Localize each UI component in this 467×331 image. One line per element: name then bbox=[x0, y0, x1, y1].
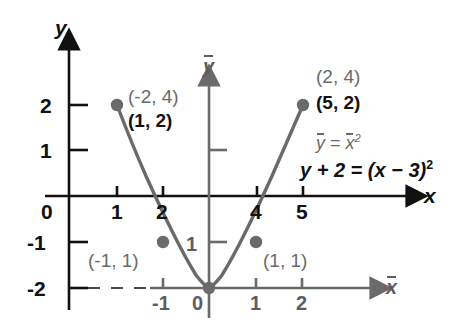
point-vertex-3-minus2 bbox=[203, 282, 215, 294]
eq-equals-sign: = bbox=[325, 133, 346, 153]
eq-primary-exponent: 2 bbox=[426, 158, 433, 172]
x-tick-label-5: 5 bbox=[296, 201, 308, 222]
xbar-axis-label: x bbox=[386, 277, 397, 297]
point-5-2 bbox=[297, 99, 309, 111]
eq-barred-exponent: 2 bbox=[355, 132, 361, 144]
barred-x-axis bbox=[150, 278, 372, 288]
primary-x-axis bbox=[45, 186, 408, 196]
primary-y-axis bbox=[69, 48, 88, 310]
y-axis-label: y bbox=[55, 17, 67, 38]
x-tick-label-1: 1 bbox=[111, 201, 123, 222]
y-tick-label-minus-2: -2 bbox=[27, 278, 46, 299]
xbar-tick-label-minus-1: -1 bbox=[152, 293, 170, 313]
eq-xbar-glyph: x bbox=[346, 134, 355, 152]
x-tick-label-4: 4 bbox=[250, 201, 262, 222]
xbar-tick-label-2: 2 bbox=[296, 293, 307, 313]
xbar-glyph: x bbox=[386, 277, 397, 297]
equation-barred: y = x2 bbox=[316, 133, 361, 152]
ybar-tick-label-1: 1 bbox=[186, 234, 197, 254]
y-tick-label-1: 1 bbox=[40, 140, 52, 161]
y-tick-label-minus-1: -1 bbox=[27, 232, 46, 253]
xbar-tick-label-0: 0 bbox=[192, 293, 203, 313]
point-label-primary-5-2: (5, 2) bbox=[316, 93, 360, 112]
equation-primary: y + 2 = (x − 3)2 bbox=[300, 159, 433, 180]
ybar-glyph: y bbox=[203, 56, 214, 76]
y-tick-label-0: 0 bbox=[41, 201, 53, 222]
ybar-axis-label: y bbox=[203, 56, 214, 76]
x-axis-label: x bbox=[424, 185, 436, 206]
x-tick-label-2: 2 bbox=[156, 201, 168, 222]
point-label-barred-minus1-1: (-1, 1) bbox=[88, 251, 139, 270]
parabola-translation-figure: y x y x 2 1 0 -1 -2 1 2 4 5 1 -1 0 1 2 (… bbox=[0, 0, 467, 331]
eq-primary-body: y + 2 = (x − 3) bbox=[300, 159, 426, 181]
xbar-tick-label-1: 1 bbox=[250, 293, 261, 313]
y-tick-label-2: 2 bbox=[40, 95, 52, 116]
point-label-primary-1-2: (1, 2) bbox=[128, 111, 172, 130]
point-4-minus1 bbox=[250, 236, 262, 248]
point-label-barred-minus2-4: (-2, 4) bbox=[128, 87, 179, 106]
point-2-minus1 bbox=[157, 236, 169, 248]
point-label-barred-1-1: (1, 1) bbox=[263, 251, 307, 270]
point-1-2 bbox=[111, 99, 123, 111]
eq-ybar-glyph: y bbox=[316, 134, 325, 152]
point-label-barred-2-4: (2, 4) bbox=[316, 67, 360, 86]
